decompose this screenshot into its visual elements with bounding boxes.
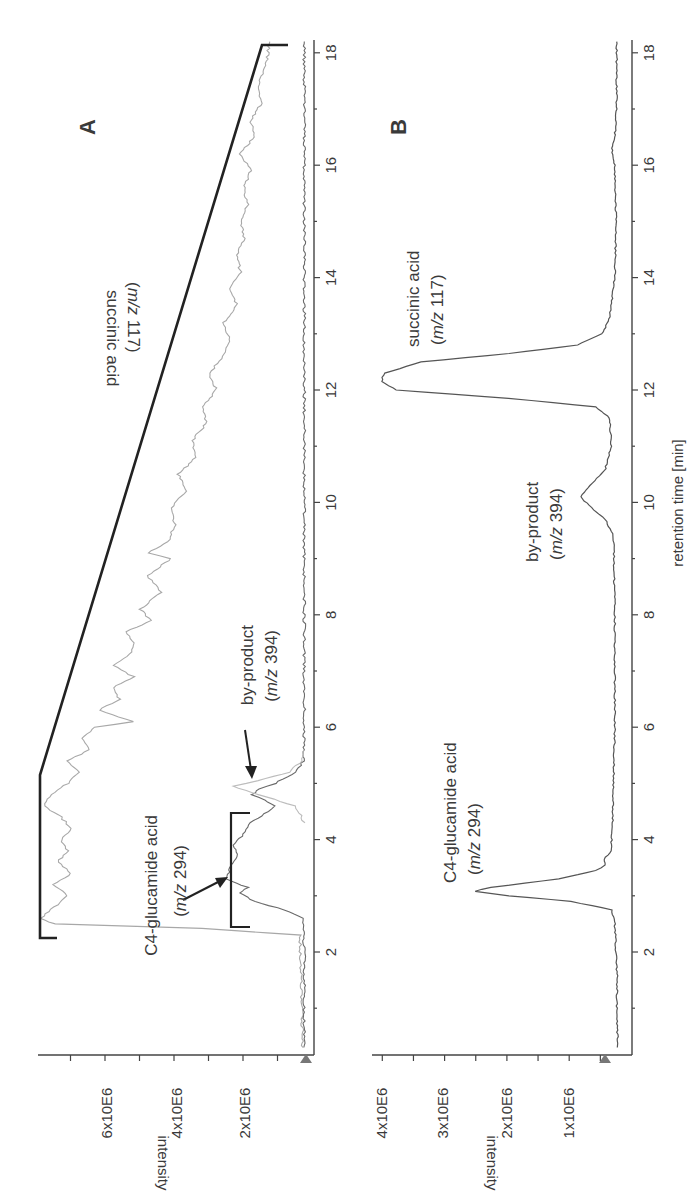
- panel-b-byproduct-label: by-product: [523, 481, 542, 562]
- time-tick-label: 16: [640, 157, 657, 174]
- panel-a-c4-label: C4-glucamide acid: [142, 815, 161, 956]
- time-tick-label: 14: [322, 269, 339, 286]
- trace-byproduct: [233, 750, 305, 823]
- time-tick-label: 12: [640, 382, 657, 399]
- panel-a: 6x10E6 4x10E6 2x10E6 intensity 246810121…: [38, 40, 339, 1191]
- panel-b-time-axis-label: retention time [min]: [669, 439, 686, 567]
- panel-a-time-ticks: [314, 53, 320, 1008]
- panel-a-succinic-label: succinic acid: [103, 290, 122, 386]
- panel-b: 4x10E6 3x10E6 2x10E6 1x10E6 intensity 24…: [372, 40, 686, 1191]
- panel-b-succinic-mz: (m/z 117): [428, 274, 447, 345]
- time-tick-label: 12: [322, 382, 339, 399]
- panel-b-traces: [382, 42, 618, 1048]
- panel-a-ytick-label: 6x10E6: [98, 1088, 115, 1139]
- time-tick-label: 8: [322, 611, 339, 619]
- time-tick-label: 18: [322, 44, 339, 61]
- panel-b-succinic-label: succinic acid: [404, 251, 423, 347]
- time-tick-label: 6: [640, 723, 657, 731]
- time-tick-label: 18: [640, 44, 657, 61]
- panel-b-intensity-ticks: [382, 1055, 600, 1061]
- panel-a-label: A: [75, 119, 100, 135]
- panel-b-label: B: [386, 119, 411, 135]
- panel-a-time-tick-labels: 24681012141618: [322, 44, 339, 956]
- panel-b-c4-label: C4-glucamide acid: [441, 742, 460, 883]
- panel-a-intensity-tick-labels: 6x10E6 4x10E6 2x10E6: [98, 1088, 253, 1139]
- panel-a-gradient-line: [40, 45, 288, 938]
- panel-a-ytick-label: 2x10E6: [236, 1088, 253, 1139]
- time-tick-label: 2: [322, 948, 339, 956]
- time-tick-label: 16: [322, 157, 339, 174]
- trace-c4glucamide: [226, 42, 305, 1048]
- panel-a-byproduct-mz: (m/z 394): [262, 630, 281, 702]
- panel-a-intensity-axis-label: intensity: [155, 1135, 172, 1191]
- panel-a-succinic-mz: (m/z 117): [124, 282, 143, 353]
- time-tick-label: 10: [640, 494, 657, 511]
- panel-a-byproduct-label: by-product: [238, 625, 257, 706]
- chromatogram-figure: 6x10E6 4x10E6 2x10E6 intensity 246810121…: [0, 0, 693, 1199]
- panel-b-ytick-label: 3x10E6: [434, 1088, 451, 1139]
- panel-a-ytick-label: 4x10E6: [168, 1088, 185, 1139]
- time-tick-label: 10: [322, 494, 339, 511]
- panel-b-intensity-tick-labels: 4x10E6 3x10E6 2x10E6 1x10E6: [373, 1088, 577, 1139]
- panel-a-byproduct-arrow-icon: [245, 730, 257, 779]
- time-tick-label: 8: [640, 611, 657, 619]
- time-tick-label: 14: [640, 269, 657, 286]
- panel-b-ytick-label: 4x10E6: [373, 1088, 390, 1139]
- time-tick-label: 6: [322, 723, 339, 731]
- panel-a-c4-mz: (m/z 294): [171, 845, 190, 917]
- time-tick-label: 2: [640, 948, 657, 956]
- panel-b-byproduct-mz: (m/z 394): [547, 488, 566, 560]
- panel-b-time-tick-labels: 24681012141618: [640, 44, 657, 956]
- panel-b-intensity-axis-label: intensity: [484, 1135, 501, 1191]
- panel-b-c4-mz: (m/z 294): [465, 803, 484, 875]
- time-tick-label: 4: [640, 835, 657, 843]
- panel-b-ytick-label: 2x10E6: [498, 1088, 515, 1139]
- panel-a-intensity-ticks: [71, 1055, 278, 1061]
- panel-b-time-ticks: [632, 53, 638, 1008]
- panel-b-ytick-label: 1x10E6: [560, 1088, 577, 1139]
- time-tick-label: 4: [322, 835, 339, 843]
- panel-a-c4-bracket: [231, 813, 250, 927]
- trace-total: [382, 42, 618, 1048]
